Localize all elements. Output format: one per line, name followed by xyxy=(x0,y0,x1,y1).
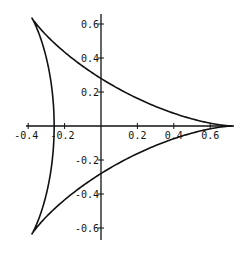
deltoid-chart: -0.4-0.20.20.40.6 0.60.40.2-0.2-0.4-0.6 xyxy=(0,0,245,259)
x-tick-label: 0.6 xyxy=(201,130,219,141)
y-tick-label: 0.4 xyxy=(81,53,99,64)
y-tick-label: -0.2 xyxy=(75,155,99,166)
y-axis: 0.60.40.2-0.2-0.4-0.6 xyxy=(75,14,104,240)
y-tick-label: -0.4 xyxy=(75,189,99,200)
x-axis: -0.4-0.20.20.40.6 xyxy=(14,123,234,141)
y-tick-label: 0.2 xyxy=(81,87,99,98)
y-tick-label: 0.6 xyxy=(81,19,99,30)
x-tick-label: -0.4 xyxy=(14,130,38,141)
x-tick-label: 0.2 xyxy=(128,130,146,141)
y-tick-label: -0.6 xyxy=(75,223,99,234)
